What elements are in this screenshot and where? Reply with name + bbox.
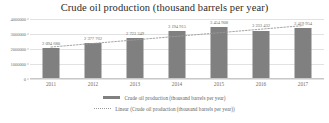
x-axis-line	[30, 78, 324, 79]
y-axis-tick-label: 2000000	[11, 47, 26, 52]
x-axis-tick-label: 2016	[256, 81, 266, 87]
legend-item-bar-series: Crude oil production (thousand barrels p…	[0, 92, 329, 103]
x-axis-tick-label: 2015	[214, 81, 224, 87]
gridline	[30, 79, 324, 80]
legend-dotted-line-swatch-icon	[94, 108, 111, 109]
y-axis: 40000003000000200000010000000	[0, 19, 29, 79]
crude-oil-production-chart: Crude oil production (thousand barrels p…	[0, 0, 329, 123]
y-axis-tick-mark	[27, 49, 29, 50]
plot-area: 2 094 6802 377 7622 723 3493 194 9153 45…	[30, 19, 324, 79]
y-axis-tick-mark	[27, 34, 29, 35]
legend-item-label: Linear (Crude oil production (thousand b…	[115, 106, 235, 112]
y-axis-tick-mark	[27, 64, 29, 65]
y-axis-tick-label: 1000000	[11, 62, 26, 67]
y-axis-tick-label: 3000000	[11, 32, 26, 37]
y-axis-tick-mark	[27, 79, 29, 80]
y-axis-tick-mark	[27, 19, 29, 20]
x-axis-tick-label: 2012	[88, 81, 98, 87]
x-axis: 2011201220132014201520162017	[30, 81, 324, 91]
x-axis-tick-label: 2011	[46, 81, 56, 87]
x-axis-tick-label: 2017	[298, 81, 308, 87]
x-axis-tick-label: 2014	[172, 81, 182, 87]
legend-item-trendline: Linear (Crude oil production (thousand b…	[0, 103, 329, 114]
y-axis-tick-label: 0	[24, 77, 26, 82]
chart-title: Crude oil production (thousand barrels p…	[0, 2, 329, 13]
y-axis-tick-label: 4000000	[11, 17, 26, 22]
x-axis-tick-label: 2013	[130, 81, 140, 87]
chart-legend: Crude oil production (thousand barrels p…	[0, 92, 329, 114]
linear-trendline	[30, 19, 324, 79]
legend-item-label: Crude oil production (thousand barrels p…	[124, 95, 225, 101]
legend-bar-swatch-icon	[103, 96, 120, 99]
